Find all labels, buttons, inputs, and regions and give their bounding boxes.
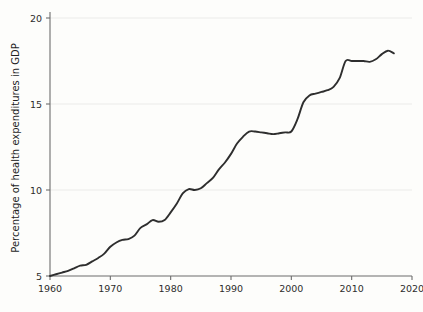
x-tick-label-1960: 1960: [38, 283, 62, 294]
x-tick-label-2000: 2000: [279, 283, 303, 294]
line-chart: 5101520 1960197019801990200020102020 Per…: [0, 0, 423, 312]
y-tick-label-20: 20: [30, 13, 42, 24]
y-tick-label-5: 5: [36, 271, 42, 282]
x-tick-label-2020: 2020: [400, 283, 423, 294]
y-tick-label-15: 15: [30, 99, 42, 110]
x-tick-label-1980: 1980: [159, 283, 183, 294]
x-tick-label-1970: 1970: [98, 283, 122, 294]
chart-container: 5101520 1960197019801990200020102020 Per…: [0, 0, 423, 312]
x-tick-label-2010: 2010: [340, 283, 364, 294]
x-tick-label-1990: 1990: [219, 283, 243, 294]
y-axis-title: Percentage of health expenditures in GDP: [10, 43, 21, 252]
chart-background: [0, 0, 423, 312]
y-tick-label-10: 10: [30, 185, 42, 196]
